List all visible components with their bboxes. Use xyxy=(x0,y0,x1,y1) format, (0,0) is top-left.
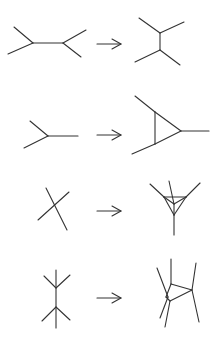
before-graph xyxy=(38,188,69,230)
right-arrow-icon xyxy=(97,293,121,303)
before-graph xyxy=(42,270,70,328)
right-arrow-icon xyxy=(97,39,121,49)
edge xyxy=(30,121,48,136)
edge xyxy=(186,183,200,197)
edge xyxy=(8,43,33,54)
edge xyxy=(139,18,160,33)
row-3 xyxy=(38,181,200,235)
edge xyxy=(192,263,196,290)
edge xyxy=(155,112,181,131)
edge xyxy=(150,184,164,197)
edge xyxy=(56,275,70,288)
edge xyxy=(63,43,81,57)
row-2 xyxy=(24,96,209,154)
edge xyxy=(46,188,67,230)
edge xyxy=(160,22,184,33)
edge xyxy=(24,136,48,148)
edge xyxy=(165,301,170,327)
edge xyxy=(170,290,192,301)
edge xyxy=(132,144,155,154)
row-4 xyxy=(42,259,199,328)
edge xyxy=(14,27,33,43)
before-graph xyxy=(24,121,78,148)
edge xyxy=(56,307,70,320)
after-graph xyxy=(150,181,200,235)
row-1 xyxy=(8,18,184,65)
after-graph xyxy=(132,96,209,154)
edge xyxy=(160,50,180,65)
diagram-canvas xyxy=(0,0,224,342)
edge xyxy=(63,30,86,43)
before-graph xyxy=(8,27,86,57)
edge xyxy=(164,197,174,215)
edge xyxy=(157,268,168,297)
after-graph xyxy=(157,259,199,327)
right-arrow-icon xyxy=(97,130,121,140)
edge xyxy=(38,192,69,220)
edge xyxy=(171,284,192,290)
edge xyxy=(42,307,56,321)
edge xyxy=(192,290,199,322)
right-arrow-icon xyxy=(97,206,121,216)
edge xyxy=(44,276,56,288)
edge xyxy=(155,131,181,144)
edge xyxy=(135,96,155,112)
edge xyxy=(135,50,160,62)
transformation-rules-diagram xyxy=(0,0,224,342)
after-graph xyxy=(135,18,184,65)
edge xyxy=(174,197,186,215)
